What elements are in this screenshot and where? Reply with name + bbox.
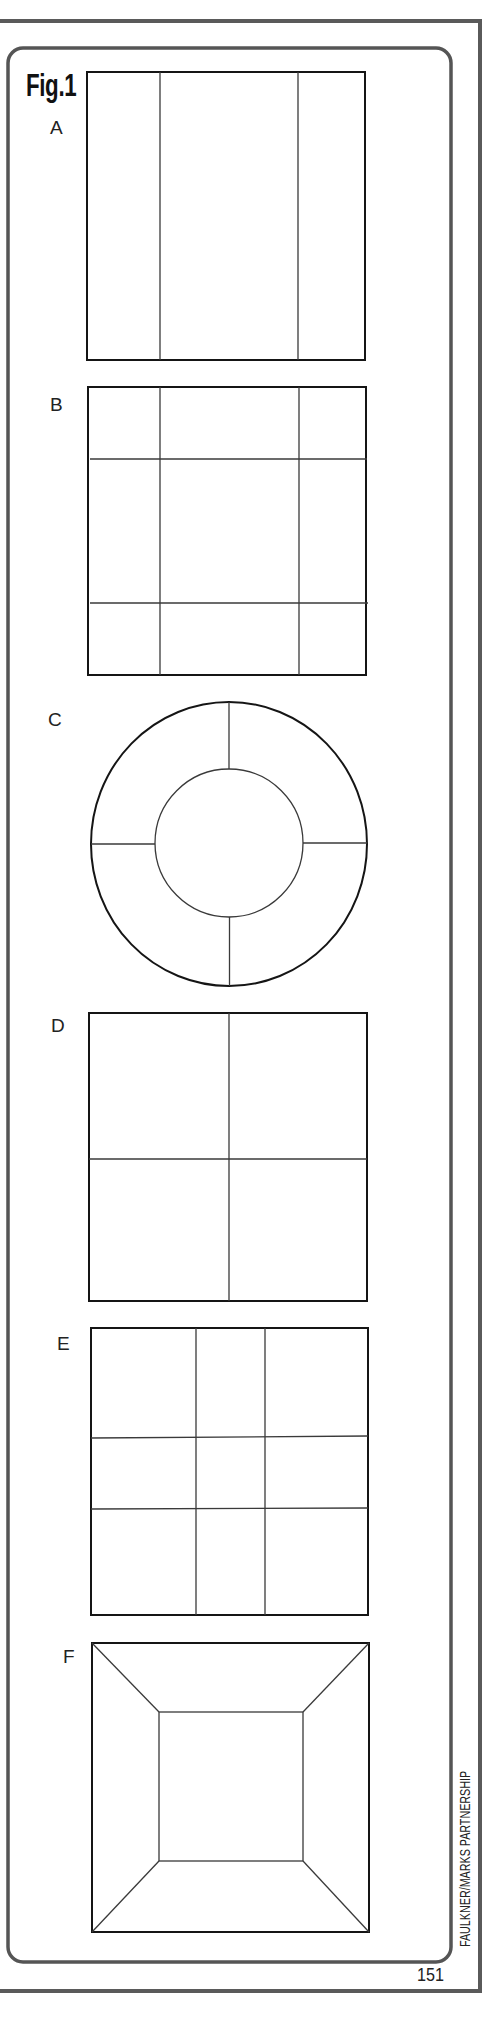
outer-frame	[0, 21, 480, 1991]
panel-b-drawing	[88, 387, 368, 675]
illustration-credit: FAULKNER/MARKS PARTNERSHIP	[458, 1771, 473, 1947]
figure-title: Fig.1	[26, 70, 76, 101]
panel-f-drawing	[92, 1643, 369, 1932]
panel-label-e: E	[57, 1334, 70, 1353]
panel-d-drawing	[89, 1013, 367, 1301]
page-number: 151	[417, 1965, 444, 1984]
inner-rounded-frame	[8, 48, 451, 1962]
panel-a-drawing	[87, 72, 365, 360]
panel-label-d: D	[51, 1016, 65, 1035]
panel-label-b: B	[50, 395, 63, 414]
panel-label-c: C	[48, 710, 62, 729]
panel-e-drawing	[91, 1328, 368, 1615]
panel-c-drawing	[91, 702, 367, 986]
panel-label-a: A	[50, 118, 63, 137]
figure-drawing	[0, 0, 498, 2019]
panel-label-f: F	[63, 1647, 75, 1666]
